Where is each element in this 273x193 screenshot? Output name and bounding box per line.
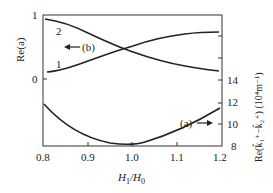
curve-a — [44, 104, 220, 144]
curve-2-label: 2 — [56, 26, 62, 37]
right-tick-label: 12 — [227, 97, 238, 108]
arrow-right-icon — [197, 120, 213, 126]
x-tick-label: 1.0 — [125, 152, 139, 163]
annotation-a: (a) — [180, 118, 192, 129]
right-tick-label: 10 — [227, 119, 238, 130]
x-tick-label: 1.2 — [213, 152, 227, 163]
arrow-left-icon — [64, 44, 80, 50]
curve-2 — [45, 19, 219, 71]
curve-1-label: 1 — [56, 59, 62, 70]
left-tick-label: 1 — [32, 10, 38, 21]
x-tick-label: 1.1 — [170, 152, 184, 163]
right-y-ticks — [218, 36, 222, 124]
x-axis-title: H1/H0 — [118, 172, 145, 187]
x-tick-label: 0.8 — [36, 152, 50, 163]
x-tick-label: 0.9 — [81, 152, 95, 163]
right-axis-title: Re(k̂₁⁺−k̂₂⁺) (10⁴m⁻¹) — [253, 72, 264, 162]
left-axis-title: Re(a) — [14, 38, 26, 62]
right-tick-label: 14 — [227, 75, 238, 86]
left-tick-label: 0 — [32, 74, 38, 85]
annotation-b: (b) — [82, 42, 95, 53]
right-tick-label: 8 — [231, 141, 237, 152]
